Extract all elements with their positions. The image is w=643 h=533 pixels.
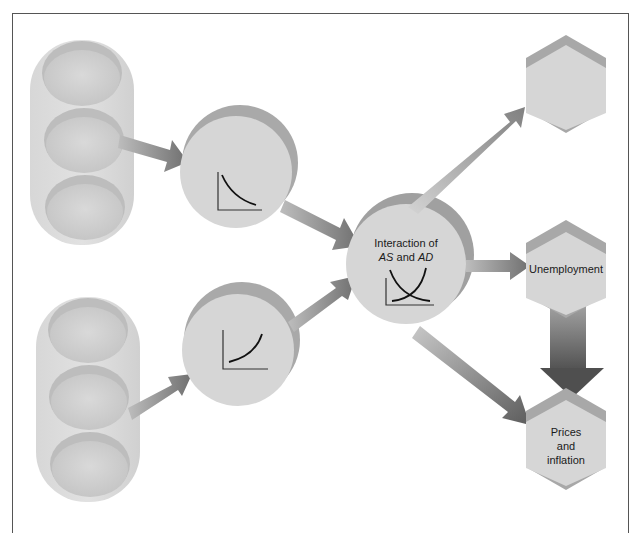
prices-line1: Prices — [526, 425, 606, 439]
bottom-input-group — [36, 297, 140, 502]
center-label-line1: Interaction of — [366, 236, 446, 250]
ad-label: AD — [418, 251, 433, 263]
arrow-center-to-unemployment — [466, 252, 530, 280]
unemployment-label: Unemployment — [526, 262, 606, 276]
center-label-line2: AS and AD — [366, 250, 446, 264]
supply-curve-circle — [182, 282, 300, 406]
as-label: AS — [379, 251, 394, 263]
top-input-group — [30, 40, 134, 245]
prices-line3: inflation — [526, 453, 606, 467]
prices-inflation-label: Prices and inflation — [526, 425, 606, 467]
and-label: and — [397, 251, 415, 263]
output-top-hexagon — [526, 35, 606, 133]
demand-curve-circle — [180, 105, 298, 228]
figure-caption-cutoff — [210, 509, 530, 515]
unemployment-vertical-arrow — [540, 300, 604, 398]
arrow-center-to-top-output — [408, 107, 525, 214]
arrow-center-to-prices — [412, 326, 530, 425]
arrow-supply-to-center — [288, 276, 356, 332]
prices-line2: and — [526, 439, 606, 453]
arrow-demand-to-center — [280, 200, 360, 250]
center-label: Interaction of AS and AD — [366, 236, 446, 264]
